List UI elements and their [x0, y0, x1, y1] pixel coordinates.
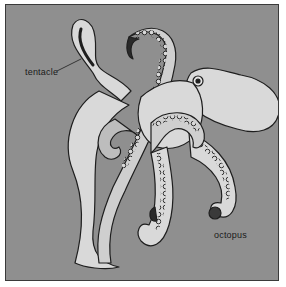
illustration-frame: tentacle octopus — [5, 4, 279, 281]
tentacle-label: tentacle — [25, 67, 58, 77]
octopus-label: octopus — [214, 230, 247, 240]
tentacle-top-tip — [127, 37, 139, 59]
tentacle-pointer-line — [57, 59, 81, 71]
tentacle-lower-middle — [138, 147, 173, 246]
